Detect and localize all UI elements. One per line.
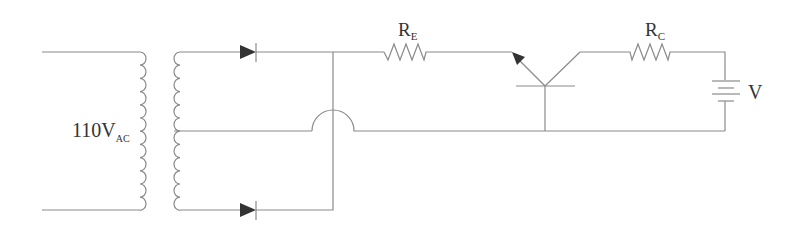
label-rc: RC bbox=[645, 19, 665, 42]
battery bbox=[712, 81, 740, 131]
label-source: 110VAC bbox=[72, 119, 130, 144]
label-re: RE bbox=[398, 19, 418, 42]
secondary-winding bbox=[174, 52, 312, 210]
label-battery: V bbox=[748, 81, 763, 103]
emitter-arrow-icon bbox=[512, 52, 525, 65]
diode-top bbox=[240, 43, 256, 62]
resistor-re bbox=[384, 44, 512, 60]
crossover-hop bbox=[312, 110, 725, 131]
diode-bottom bbox=[240, 201, 256, 220]
resistor-rc bbox=[580, 44, 725, 80]
transistor bbox=[512, 52, 580, 131]
circuit-diagram: RE RC V 110VAC bbox=[0, 0, 802, 237]
